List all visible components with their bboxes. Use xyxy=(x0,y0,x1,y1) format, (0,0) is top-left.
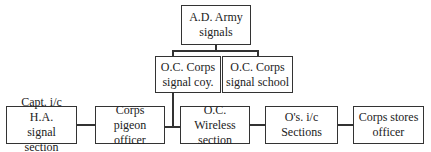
node-oc-corps-signal-school: O.C. Corps signal school xyxy=(222,56,293,93)
node-label-line1: Capt. i/c H.A. xyxy=(9,95,74,125)
node-label-line1: A.D. Army xyxy=(189,10,243,25)
node-capt-ha-signal-section: Capt. i/c H.A. signal section xyxy=(6,106,77,144)
node-label-line2: section xyxy=(183,133,247,148)
node-label-line2: signal section xyxy=(9,125,74,152)
connector-os-to-stores xyxy=(338,124,353,126)
connector-capt-to-pigeon xyxy=(77,124,95,126)
connector-pigeon-to-wireless xyxy=(165,126,180,128)
node-label-line1: O.C. Corps xyxy=(226,60,289,75)
node-label-line2: signal coy. xyxy=(161,75,215,90)
node-os-ic-sections: O's. i/c Sections xyxy=(265,106,338,144)
node-label-line1: Corps pigeon xyxy=(98,103,162,133)
node-label-line1: O.C. Corps xyxy=(161,60,215,75)
node-label-line2: officer xyxy=(98,133,162,148)
connector-top-branch xyxy=(172,50,258,52)
node-corps-stores-officer: Corps stores officer xyxy=(353,106,424,144)
node-ad-army-signals: A.D. Army signals xyxy=(181,5,251,45)
node-label-line2: signals xyxy=(189,25,243,40)
node-oc-corps-signal-coy: O.C. Corps signal coy. xyxy=(155,56,221,93)
connector-wireless-to-os xyxy=(250,124,265,126)
node-label-line2: officer xyxy=(359,125,419,140)
node-label-line1: O.C. Wireless xyxy=(183,103,247,133)
connector-signal-coy-down xyxy=(172,93,174,127)
node-label-line2: signal school xyxy=(226,75,289,90)
node-corps-pigeon-officer: Corps pigeon officer xyxy=(95,106,165,144)
node-label-line1: O's. i/c Sections xyxy=(268,110,335,140)
node-oc-wireless-section: O.C. Wireless section xyxy=(180,106,250,144)
node-label-line1: Corps stores xyxy=(359,110,419,125)
